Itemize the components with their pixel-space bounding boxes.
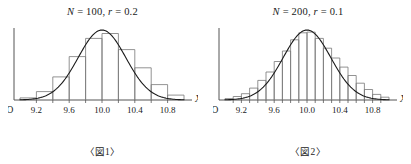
figure-2-title-n-value: = 200, [280, 6, 314, 17]
figure-2-title-r-value: = 0.1 [318, 6, 344, 17]
figure-1-title-n-value: = 100, [74, 6, 108, 17]
figure-1-caption: 〈図1〉 [0, 144, 205, 158]
figure-1-title-r-value: = 0.2 [112, 6, 138, 17]
figure-row: N = 100, r = 0.2 9.29.610.010.410.8OX 〈図… [0, 0, 411, 164]
figure-1: N = 100, r = 0.2 9.29.610.010.410.8OX 〈図… [0, 0, 205, 164]
origin-label: O [213, 105, 219, 114]
x-axis-label: X [399, 93, 403, 104]
x-axis-tick-label: 10.8 [160, 105, 176, 114]
figure-2-svg: 9.29.610.010.410.8OX [213, 22, 403, 114]
x-axis-tick-label: 10.4 [127, 105, 143, 114]
x-axis-tick-label: 9.6 [269, 105, 281, 114]
x-axis-tick-label: 10.0 [299, 105, 315, 114]
figure-2: N = 200, r = 0.1 9.29.610.010.410.8OX 〈図… [205, 0, 411, 164]
figure-2-title: N = 200, r = 0.1 [205, 6, 411, 17]
x-axis-tick-label: 9.2 [236, 105, 247, 114]
figure-2-caption: 〈図2〉 [205, 144, 411, 158]
figure-1-svg: 9.29.610.010.410.8OX [8, 22, 198, 114]
figure-2-plot: 9.29.610.010.410.8OX [213, 22, 403, 114]
x-axis-tick-label: 10.8 [365, 105, 381, 114]
x-axis-tick-label: 9.6 [64, 105, 76, 114]
x-axis-label: X [194, 93, 198, 104]
origin-label: O [8, 105, 14, 114]
x-axis-tick-label: 10.0 [94, 105, 110, 114]
x-axis-tick-label: 10.4 [332, 105, 348, 114]
figure-2-title-n-symbol: N [273, 6, 280, 17]
x-axis-tick-label: 9.2 [31, 105, 42, 114]
figure-1-plot: 9.29.610.010.410.8OX [8, 22, 198, 114]
figure-1-title: N = 100, r = 0.2 [0, 6, 205, 17]
